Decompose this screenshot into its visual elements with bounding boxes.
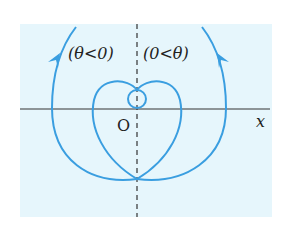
origin-label: O [117,116,130,135]
left-region-label: (θ<0) [68,44,114,63]
right-region-label: (0<θ) [143,44,189,63]
x-axis-label: x [256,112,265,131]
polar-curve-diagram: (θ<0) (0<θ) O x [0,0,284,227]
